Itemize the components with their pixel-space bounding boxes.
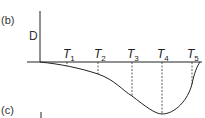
tick-label-t3: T3 xyxy=(127,47,139,63)
tick-label-t2: T2 xyxy=(94,47,106,63)
tick-labels: T1 T2 T3 T4 T5 xyxy=(63,47,199,63)
depth-curve xyxy=(40,62,200,114)
tick-label-t5: T5 xyxy=(187,47,199,63)
tick-label-t1: T1 xyxy=(63,47,75,63)
tick-label-t4: T4 xyxy=(157,47,169,63)
diagram-canvas: T1 T2 T3 T4 T5 xyxy=(0,0,205,118)
